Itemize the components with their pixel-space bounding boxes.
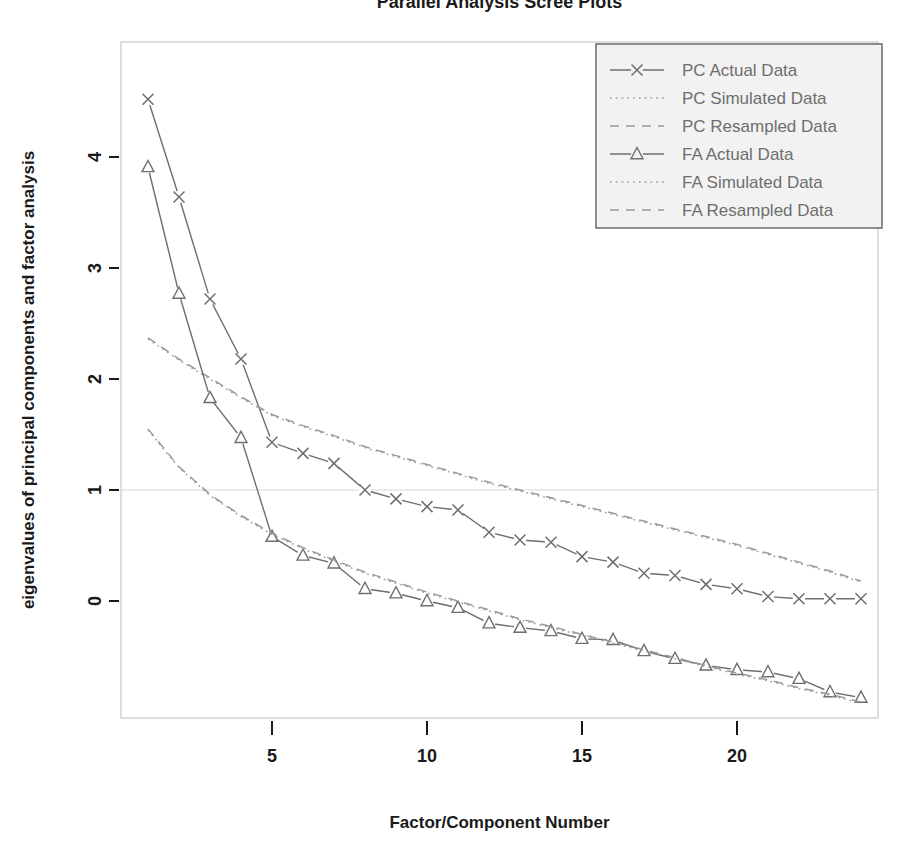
series-line-fa_actual (148, 167, 861, 698)
series-fa_resampled (148, 429, 861, 702)
legend-label: FA Resampled Data (682, 201, 834, 220)
x-axis-tick-label: 15 (572, 746, 592, 766)
y-axis-tick-label: 2 (85, 374, 105, 384)
x-axis-title: Factor/Component Number (389, 813, 609, 832)
legend-label: FA Actual Data (682, 145, 794, 164)
y-axis-tick-label: 3 (85, 263, 105, 273)
y-axis-title: eigenvalues of principal components and … (19, 151, 38, 609)
legend-label: PC Actual Data (682, 61, 798, 80)
series-line-pc_resampled (148, 338, 861, 581)
series-line-fa_simulated (148, 430, 861, 703)
axes: 012345101520 (85, 152, 747, 766)
legend-label: PC Simulated Data (682, 89, 827, 108)
y-axis-tick-label: 1 (85, 485, 105, 495)
series-fa_actual (142, 160, 867, 703)
parallel-analysis-scree-plot: Parallel Analysis Scree Plots01234510152… (0, 0, 911, 852)
series-fa_simulated (148, 430, 861, 703)
x-axis-tick-label: 5 (267, 746, 277, 766)
series-pc_resampled (148, 338, 861, 581)
series-line-fa_resampled (148, 429, 861, 702)
legend: PC Actual DataPC Simulated DataPC Resamp… (596, 44, 882, 228)
x-axis-tick-label: 20 (727, 746, 747, 766)
x-axis-tick-label: 10 (417, 746, 437, 766)
chart-title-group: Parallel Analysis Scree Plots (377, 0, 622, 12)
y-axis-tick-label: 0 (85, 596, 105, 606)
chart-title: Parallel Analysis Scree Plots (377, 0, 622, 12)
y-axis-tick-label: 4 (85, 152, 105, 162)
legend-label: PC Resampled Data (682, 117, 838, 136)
series-line-pc_simulated (148, 339, 861, 582)
legend-label: FA Simulated Data (682, 173, 823, 192)
scree-plot-svg: Parallel Analysis Scree Plots01234510152… (0, 0, 911, 852)
series-pc_simulated (148, 339, 861, 582)
